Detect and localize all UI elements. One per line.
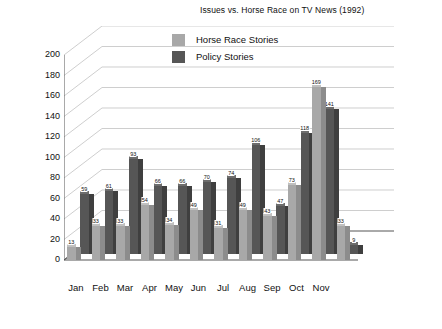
- bar-side: [100, 226, 105, 260]
- x-axis-tick-label: Jun: [186, 282, 212, 293]
- bar-face: [337, 226, 346, 260]
- bar-side: [174, 225, 179, 260]
- bar: 33: [116, 226, 125, 260]
- bar-value-label: 54: [141, 197, 148, 203]
- bar-face: [141, 205, 150, 260]
- bar: 43: [263, 216, 272, 260]
- bar-side: [345, 226, 350, 260]
- legend-swatch-horse-race: [172, 34, 185, 46]
- bar-value-label: 33: [117, 218, 124, 224]
- bar: 141: [325, 109, 334, 254]
- bar: 34: [165, 225, 174, 260]
- bar-side: [76, 247, 81, 260]
- bar-value-label: 47: [277, 198, 284, 204]
- legend-label-policy: Policy Stories: [196, 51, 254, 62]
- bar-face: [105, 191, 114, 254]
- bar-face: [67, 247, 76, 260]
- y-axis-tick-label: 120: [30, 131, 60, 141]
- bar-face: [80, 194, 89, 254]
- bar: 73: [288, 185, 297, 260]
- bar: 54: [141, 205, 150, 260]
- x-axis-tick-label: Feb: [88, 282, 114, 293]
- bar-face: [129, 159, 138, 254]
- bar: 13: [67, 247, 76, 260]
- chart-legend: Horse Race Stories Policy Stories: [172, 31, 278, 65]
- bar-side: [321, 87, 326, 260]
- y-axis-tick-label: 40: [30, 213, 60, 223]
- bar-face: [92, 226, 101, 260]
- bar-value-label: 70: [203, 174, 210, 180]
- bar: 66: [178, 186, 187, 254]
- bar: 61: [105, 191, 114, 254]
- bar-value-label: 66: [154, 178, 161, 184]
- y-axis-tick-label: 180: [30, 70, 60, 80]
- bar-value-label: 49: [239, 202, 246, 208]
- bar: 66: [154, 186, 163, 254]
- legend-label-horse-race: Horse Race Stories: [196, 34, 278, 45]
- y-axis-tick-label: 20: [30, 234, 60, 244]
- bar-value-label: 33: [92, 218, 99, 224]
- bar-value-label: 33: [337, 218, 344, 224]
- bar-value-label: 118: [300, 125, 310, 131]
- bar-value-label: 66: [179, 178, 186, 184]
- bar: 169: [312, 87, 321, 260]
- bar-value-label: 49: [190, 202, 197, 208]
- bar-face: [214, 228, 223, 260]
- bar-value-label: 106: [251, 137, 261, 143]
- bar-side: [358, 245, 363, 254]
- x-axis-tick-label: Mar: [112, 282, 138, 293]
- bar-value-label: 74: [228, 170, 235, 176]
- bar-face: [350, 245, 359, 254]
- plot-area: 020406080100120140160180200 135933613393…: [64, 26, 394, 288]
- bar: 106: [252, 145, 261, 254]
- y-axis-tick-label: 140: [30, 111, 60, 121]
- bar-value-label: 9: [352, 237, 356, 243]
- bar-face: [263, 216, 272, 260]
- bar-value-label: 141: [324, 101, 334, 107]
- y-axis-tick-label: 100: [30, 152, 60, 162]
- bar-face: [288, 185, 297, 260]
- bar: 93: [129, 159, 138, 254]
- bar-side: [247, 210, 252, 260]
- bar-face: [252, 145, 261, 254]
- bar: 49: [239, 210, 248, 260]
- x-axis-tick-label: Aug: [235, 282, 261, 293]
- bar-value-label: 59: [81, 186, 88, 192]
- bar: 49: [190, 210, 199, 260]
- bar-side: [198, 210, 203, 260]
- bar-side: [149, 205, 154, 260]
- bar-value-label: 73: [288, 177, 295, 183]
- bar-value-label: 31: [215, 220, 222, 226]
- bar: 9: [350, 245, 359, 254]
- chart-container: Issues vs. Horse Race on TV News (1992) …: [0, 0, 442, 329]
- x-axis-tick-label: Jul: [210, 282, 236, 293]
- bar-face: [312, 87, 321, 260]
- bar: 47: [276, 206, 285, 254]
- legend-swatch-policy: [172, 51, 185, 63]
- bar: 70: [203, 182, 212, 254]
- bar-face: [276, 206, 285, 254]
- bar: 33: [92, 226, 101, 260]
- legend-item-horse-race: Horse Race Stories: [172, 31, 278, 48]
- bar-value-label: 169: [311, 79, 321, 85]
- bar: 59: [80, 194, 89, 254]
- bar-value-label: 34: [166, 217, 173, 223]
- bar-face: [325, 109, 334, 254]
- bar-value-label: 43: [264, 208, 271, 214]
- bar-face: [178, 186, 187, 254]
- bar: 33: [337, 226, 346, 260]
- bar: 74: [227, 178, 236, 254]
- bar-value-label: 61: [105, 183, 112, 189]
- x-axis-tick-label: Jan: [63, 282, 89, 293]
- y-axis-tick-label: 60: [30, 193, 60, 203]
- bar-value-label: 13: [68, 239, 75, 245]
- x-axis-tick-label: Apr: [137, 282, 163, 293]
- x-axis-tick-label: Nov: [308, 282, 334, 293]
- bar: 31: [214, 228, 223, 260]
- bar-face: [301, 133, 310, 254]
- bar: 118: [301, 133, 310, 254]
- bar-value-label: 93: [130, 151, 137, 157]
- y-axis-tick-label: 160: [30, 90, 60, 100]
- bar-face: [116, 226, 125, 260]
- bar-face: [239, 210, 248, 260]
